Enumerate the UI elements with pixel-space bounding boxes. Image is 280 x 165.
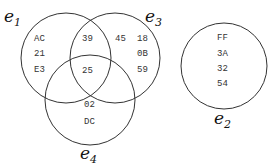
- element-label: 3A: [217, 49, 228, 59]
- set-label-e2: e2: [214, 108, 231, 131]
- element-label: DC: [84, 117, 95, 127]
- set-label-e1: e1: [4, 6, 21, 29]
- element-label: 32: [217, 64, 228, 74]
- element-label: 18: [137, 34, 148, 44]
- element-label: AC: [34, 34, 45, 44]
- element-label: 39: [82, 34, 93, 44]
- element-label: E3: [34, 65, 45, 75]
- venn-diagram: e1 e3 e4 e2 AC 21 E3 39 45 18 0B 59 25 0…: [0, 0, 280, 165]
- element-label: 25: [82, 66, 93, 76]
- element-label: 21: [34, 49, 45, 59]
- element-label: 0B: [137, 49, 148, 59]
- element-label: 02: [84, 100, 95, 110]
- element-label: 45: [115, 34, 126, 44]
- element-label: FF: [217, 33, 228, 43]
- set-label-e4: e4: [80, 143, 97, 165]
- set-label-e3: e3: [145, 6, 162, 29]
- element-label: 54: [217, 79, 228, 89]
- element-label: 59: [137, 65, 148, 75]
